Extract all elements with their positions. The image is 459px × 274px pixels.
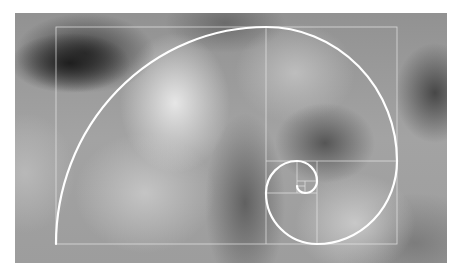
outer-rectangle (56, 27, 397, 244)
golden-spiral-overlay (0, 0, 459, 274)
fibonacci-grid (56, 27, 397, 244)
golden-spiral (56, 27, 397, 244)
